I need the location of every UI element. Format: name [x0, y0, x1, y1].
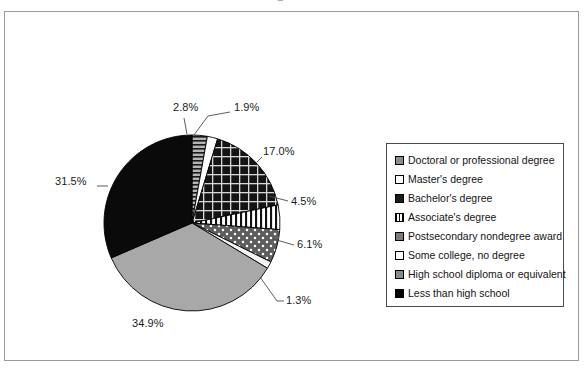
legend-item-label: Postsecondary nondegree award [408, 231, 562, 242]
pie-chart-area: 2.8% 1.9% 17.0% 4.5% 6.1% 1.3% 34.9% 31.… [5, 12, 365, 362]
chart-frame: 2.8% 1.9% 17.0% 4.5% 6.1% 1.3% 34.9% 31.… [4, 11, 579, 361]
legend-item-label: Less than high school [408, 288, 510, 299]
legend-item-label: Associate's degree [408, 212, 496, 223]
leader-line-1-3 [260, 277, 284, 301]
legend-item-bachelors-degree[interactable]: Bachelor's degree [395, 189, 563, 208]
clipped-glyph-a: ■ [277, 0, 284, 3]
legend-swatch-icon [395, 175, 404, 184]
pct-label-6-1: 6.1% [297, 238, 322, 250]
leader-line-2-8 [184, 118, 187, 134]
legend-item-less-than-high-school[interactable]: Less than high school [395, 284, 563, 303]
legend-swatch-icon [395, 156, 404, 165]
pct-label-17-0: 17.0% [263, 145, 295, 157]
legend-swatch-icon [395, 289, 404, 298]
legend-item-some-college-no-degree[interactable]: Some college, no degree [395, 246, 563, 265]
legend-swatch-icon [395, 213, 404, 222]
legend-item-associates-degree[interactable]: Associate's degree [395, 208, 563, 227]
legend: Doctoral or professional degree Master's… [386, 143, 564, 307]
pie-chart-svg [5, 12, 365, 362]
pct-label-2-8: 2.8% [173, 101, 198, 113]
pct-label-1-9: 1.9% [234, 101, 259, 113]
leader-line-1-9 [194, 112, 230, 135]
legend-swatch-icon [395, 194, 404, 203]
pie-slice-group [104, 135, 280, 311]
top-clipped-text-artifact: ■ ▪ [0, 0, 587, 5]
pct-label-4-5: 4.5% [291, 195, 316, 207]
legend-item-label: Some college, no degree [408, 250, 525, 261]
pct-label-1-3: 1.3% [286, 294, 311, 306]
legend-item-label: Doctoral or professional degree [408, 155, 555, 166]
legend-item-doctoral-or-professional-degree[interactable]: Doctoral or professional degree [395, 151, 563, 170]
legend-swatch-icon [395, 270, 404, 279]
pct-label-34-9: 34.9% [132, 317, 164, 329]
legend-swatch-icon [395, 251, 404, 260]
clipped-glyph-b: ▪ [299, 0, 303, 3]
legend-item-label: High school diploma or equivalent [408, 269, 566, 280]
leader-line-17-0 [257, 157, 262, 162]
legend-item-label: Master's degree [408, 174, 483, 185]
legend-swatch-icon [395, 232, 404, 241]
legend-item-postsecondary-nondegree-award[interactable]: Postsecondary nondegree award [395, 227, 563, 246]
legend-item-high-school-diploma-or-equivalent[interactable]: High school diploma or equivalent [395, 265, 563, 284]
pct-label-31-5: 31.5% [55, 175, 87, 187]
legend-item-masters-degree[interactable]: Master's degree [395, 170, 563, 189]
legend-item-label: Bachelor's degree [408, 193, 492, 204]
